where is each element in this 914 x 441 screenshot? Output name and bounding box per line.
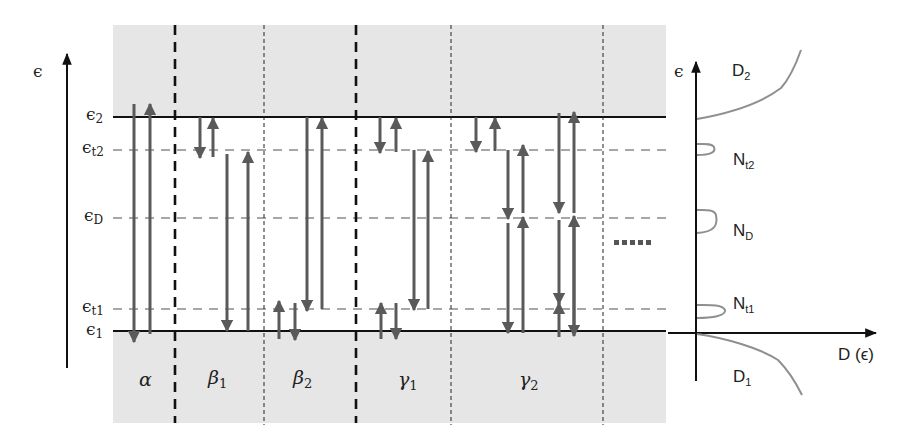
process-label-beta2: β2 [293,368,312,390]
label-et1-symbol: ϵ [82,296,92,316]
energy-levels [113,117,666,331]
dos-energy-axis-symbol: ϵ [674,61,684,81]
label-et2: ϵt2 [82,139,104,158]
dos-Nt2-sub: t2 [745,159,754,171]
process-gamma1-greek: γ [398,368,409,390]
process-beta2-sub: 2 [304,376,312,391]
dos-D2-name: D [732,61,744,80]
upper-band [113,25,666,117]
process-gamma2-sub: 2 [530,378,538,393]
curve-ND [697,210,717,233]
dos-label-ND: ND [733,222,753,242]
energy-diagram [0,0,914,441]
band-shading [113,25,666,423]
process-gamma2-greek: γ [519,368,530,390]
process-beta1-sub: 1 [219,376,227,391]
dos-Nt1-sub: t1 [745,303,754,315]
process-alpha-greek: α [139,368,152,390]
dos-energy-axis-label: ϵ [674,63,684,80]
energy-axis-symbol: ϵ [33,61,43,81]
dos-x-axis-text: D (ϵ) [838,345,874,364]
dos-label-D1: D1 [733,368,751,388]
process-beta1-greek: β [208,366,219,388]
label-e2-sub: 2 [96,112,104,126]
label-e1: ϵ1 [86,321,103,340]
dos-label-Nt1: Nt1 [733,295,754,315]
dos-axes [668,62,876,381]
label-e1-sub: 1 [96,327,104,341]
label-eD-symbol: ϵ [84,205,94,225]
process-gamma1-sub: 1 [409,378,417,393]
label-et1-sub: t1 [92,304,104,318]
transition-arrows [134,104,574,342]
label-e1-symbol: ϵ [86,319,96,339]
label-et2-sub: t2 [92,145,104,159]
dos-ND-sub: D [745,230,753,242]
dos-x-axis-label: D (ϵ) [838,346,874,363]
label-et1: ϵt1 [82,298,104,317]
dos-D2-sub: 2 [744,70,750,82]
curve-D2 [697,50,801,119]
lower-band [113,331,666,423]
dos-D1-sub: 1 [745,376,751,388]
dos-D1-name: D [733,367,745,386]
dos-label-Nt2: Nt2 [733,151,754,171]
process-label-alpha: α [139,370,152,389]
label-eD-sub: D [94,213,104,227]
label-et2-symbol: ϵ [82,137,92,157]
curve-Nt2 [697,144,714,155]
label-eD: ϵD [84,207,103,226]
dos-label-D2: D2 [732,62,750,82]
process-label-gamma1: γ1 [398,370,418,392]
process-label-gamma2: γ2 [519,370,539,392]
dos-Nt2-name: N [733,150,745,169]
label-e2: ϵ2 [86,106,103,125]
process-beta2-greek: β [293,366,304,388]
process-label-beta1: β1 [208,368,227,390]
label-e2-symbol: ϵ [86,104,96,124]
energy-axis-label: ϵ [33,63,43,80]
continuation-dots [614,240,651,245]
curve-Nt1 [697,305,725,318]
dos-Nt1-name: N [733,294,745,313]
dos-ND-name: N [733,221,745,240]
